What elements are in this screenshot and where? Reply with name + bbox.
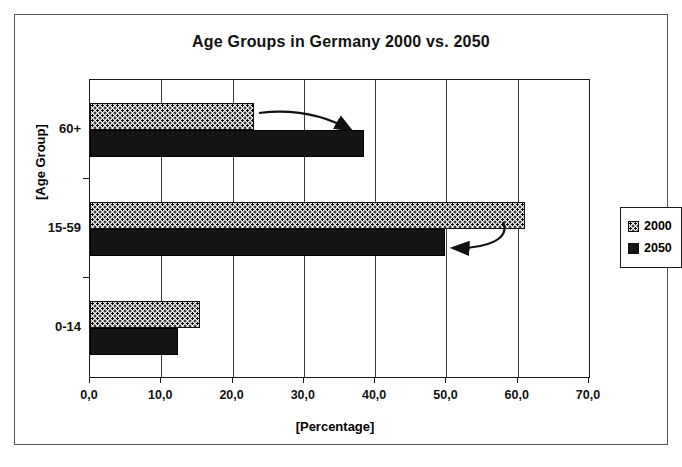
bar-60+-2000[interactable]: [90, 103, 254, 130]
x-axis-tick: [517, 377, 518, 383]
y-axis-tick: [83, 277, 89, 278]
chart-title: Age Groups in Germany 2000 vs. 2050: [15, 33, 667, 51]
chart-frame: Age Groups in Germany 2000 vs. 2050 [Age…: [14, 14, 668, 445]
y-axis-tick: [83, 178, 89, 179]
y-axis-tick-label-0-14: 0-14: [11, 319, 81, 334]
x-axis-tick-label: 30,0: [278, 388, 328, 402]
y-axis-title: [Age Group]: [33, 124, 48, 200]
bar-group-60+: [90, 103, 589, 157]
x-axis-tick: [588, 377, 589, 383]
x-axis-tick-label: 10,0: [135, 388, 185, 402]
bar-group-0-14: [90, 301, 589, 355]
legend-item-2050[interactable]: 2050: [628, 237, 675, 259]
bar-15-59-2050[interactable]: [90, 229, 445, 256]
chart-legend: 2000 2050: [620, 207, 682, 268]
x-axis-title: [Percentage]: [15, 419, 655, 434]
x-axis-tick-label: 70,0: [563, 388, 613, 402]
x-axis-tick: [303, 377, 304, 383]
dotted-square-icon: [628, 221, 639, 232]
x-axis-tick-label: 50,0: [420, 388, 470, 402]
filled-square-icon: [628, 243, 639, 254]
x-axis-tick: [232, 377, 233, 383]
plot-area: [89, 79, 590, 378]
bar-60+-2050[interactable]: [90, 130, 364, 157]
x-axis-tick: [160, 377, 161, 383]
y-axis-tick-label-15-59: 15-59: [11, 220, 81, 235]
legend-label-2000: 2000: [644, 220, 672, 233]
x-axis-tick-label: 60,0: [492, 388, 542, 402]
bar-0-14-2000[interactable]: [90, 301, 200, 328]
bar-0-14-2050[interactable]: [90, 328, 178, 355]
x-axis-tick: [445, 377, 446, 383]
y-axis-tick-label-60+: 60+: [11, 121, 81, 136]
x-axis-tick-label: 20,0: [207, 388, 257, 402]
legend-label-2050: 2050: [644, 242, 672, 255]
bar-15-59-2000[interactable]: [90, 202, 525, 229]
x-axis-tick: [374, 377, 375, 383]
bar-group-15-59: [90, 202, 589, 256]
legend-item-2000[interactable]: 2000: [628, 215, 675, 237]
x-axis-tick: [89, 377, 90, 383]
x-axis-tick-label: 40,0: [349, 388, 399, 402]
x-axis-tick-label: 0,0: [64, 388, 114, 402]
